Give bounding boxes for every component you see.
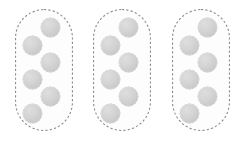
counter-dot bbox=[41, 87, 60, 106]
counter-dot bbox=[198, 87, 217, 106]
counter-dot bbox=[41, 53, 60, 72]
counter-dot bbox=[41, 18, 60, 37]
counter-dot bbox=[180, 104, 199, 123]
counter-dot bbox=[23, 70, 42, 89]
counter-dot bbox=[119, 18, 138, 37]
counter-dot bbox=[198, 53, 217, 72]
dot-group bbox=[15, 9, 73, 131]
dot-group bbox=[93, 9, 151, 131]
counter-dot bbox=[180, 36, 199, 55]
counter-dot bbox=[101, 70, 120, 89]
counter-dot bbox=[198, 18, 217, 37]
dot-group bbox=[172, 9, 230, 131]
counter-dot bbox=[180, 70, 199, 89]
diagram-canvas bbox=[0, 0, 249, 144]
counter-dot bbox=[101, 104, 120, 123]
counter-dot bbox=[23, 36, 42, 55]
counter-dot bbox=[119, 87, 138, 106]
counter-dot bbox=[119, 53, 138, 72]
counter-dot bbox=[101, 36, 120, 55]
counter-dot bbox=[23, 104, 42, 123]
